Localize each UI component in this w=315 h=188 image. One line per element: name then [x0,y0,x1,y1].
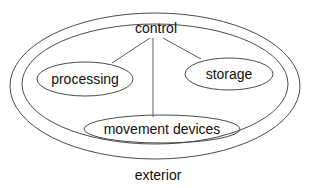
processing-label: processing [51,72,119,86]
diagram-canvas: control processing storage movement devi… [0,0,315,188]
connector-control-processing [112,38,150,63]
connector-control-storage [163,38,201,59]
storage-label: storage [206,67,253,81]
movement-devices-label: movement devices [104,122,221,136]
exterior-label: exterior [135,168,182,182]
control-label: control [135,21,177,35]
